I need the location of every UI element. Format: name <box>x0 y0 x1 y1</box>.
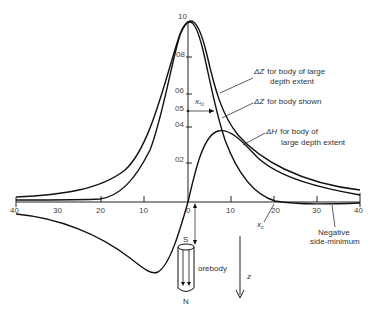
x-tick-label: 30 <box>312 206 321 215</box>
orebody-cylinder <box>178 244 194 292</box>
z-label: z <box>246 272 251 281</box>
y-ticks <box>186 57 192 163</box>
legend-1-line1: ΔZfor body of large <box>253 67 326 76</box>
z-axis-arrow <box>236 236 244 298</box>
legend-1-line2: depth extent <box>270 77 315 86</box>
leader-line <box>220 78 253 93</box>
y-tick-label: 05 <box>175 104 184 113</box>
x-tick-label: 10 <box>139 206 148 215</box>
y-tick-label: 10 <box>178 12 187 21</box>
north-pole-label: N <box>183 297 189 306</box>
half-width-marker: x½ <box>188 97 214 114</box>
negative-label: Negative <box>318 228 350 237</box>
anomaly-diagram: 40 30 20 10 0 10 20 30 40 10 08 06 05 04… <box>0 0 380 322</box>
leader-line <box>243 133 265 145</box>
x-ticks <box>101 196 317 202</box>
y-tick-label: 02 <box>175 155 184 164</box>
side-min-leader <box>332 205 335 227</box>
leader-line <box>222 103 253 118</box>
y-tick-label: 06 <box>175 86 184 95</box>
legend-2-line1: ΔZfor body shown <box>253 97 322 106</box>
y-tick-label: 08 <box>176 50 185 59</box>
x-tick-label: 10 <box>226 206 235 215</box>
svg-text:x½: x½ <box>194 97 204 107</box>
depth-to-top-arrow <box>193 203 197 245</box>
legend-3-line2: large depth extent <box>281 138 346 147</box>
south-pole-label: S <box>183 235 188 244</box>
x-tick-label: 20 <box>96 206 105 215</box>
side-minimum-label: side-minimum <box>310 237 360 246</box>
x-tick-label: 40 <box>354 206 363 215</box>
orebody-label: orebody <box>198 264 227 273</box>
x-tick-label: 30 <box>53 206 62 215</box>
legend-3-line1: ΔHfor body of <box>265 127 319 136</box>
y-tick-label: 04 <box>175 120 184 129</box>
xc-label: xc <box>256 220 264 230</box>
